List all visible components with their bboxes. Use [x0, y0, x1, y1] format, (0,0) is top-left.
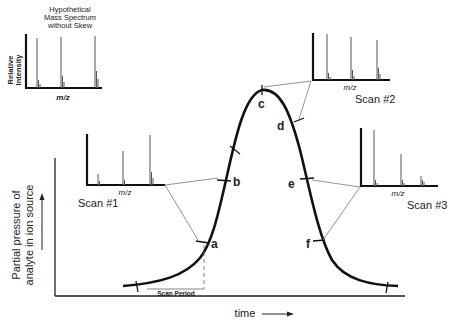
point-label-f: f	[306, 237, 311, 251]
x-axis-label: time	[235, 307, 256, 319]
y-axis-label-line2: analyte in ion source	[23, 185, 35, 286]
scan-period-label: Scan Period	[157, 290, 195, 297]
scan-2-connector-c	[264, 81, 311, 87]
reference-ylabel-line2: Intensity	[14, 54, 23, 86]
scan-3-connector-e	[312, 180, 360, 187]
reference-title-line3: without Skew	[47, 21, 93, 30]
point-label-e: e	[288, 177, 295, 191]
scan-period: Scan Period	[147, 245, 204, 297]
curve-ticks	[136, 85, 388, 293]
point-label-c: c	[258, 97, 265, 111]
scan-2-connector-d	[299, 81, 311, 119]
point-label-b: b	[233, 175, 240, 189]
point-label-d: d	[277, 119, 284, 133]
scan-2-label: Scan #2	[355, 93, 395, 105]
scan-1-connector-a	[165, 185, 198, 240]
x-axis-arrowhead-icon	[287, 312, 294, 317]
reference-spectrum: Hypothetical Mass Spectrum without Skew …	[6, 5, 102, 102]
curve-point-labels: a b c d e f	[211, 97, 311, 251]
scan-3-xlabel: m/z	[392, 189, 405, 198]
reference-xlabel: m/z	[56, 93, 69, 102]
scan-1-connector-b	[165, 178, 218, 185]
elution-curve	[123, 90, 398, 286]
scan-1-spectrum: m/z Scan #1	[78, 134, 218, 240]
y-axis-label-line1: Partial pressure of	[10, 189, 22, 279]
main-axes: Partial pressure of analyte in ion sourc…	[10, 158, 405, 319]
scan-3-label: Scan #3	[407, 199, 447, 211]
y-axis-arrowhead-icon	[40, 193, 45, 200]
scan-1-label: Scan #1	[78, 197, 118, 209]
point-label-a: a	[211, 237, 218, 251]
scan-1-xlabel: m/z	[119, 188, 132, 197]
reference-peaks	[37, 36, 98, 88]
scan-3-spectrum: m/z Scan #3	[312, 128, 447, 240]
scan-3-connector-f	[323, 187, 360, 240]
mass-spectrum-skew-diagram: Hypothetical Mass Spectrum without Skew …	[0, 0, 459, 326]
scan-2-xlabel: m/z	[344, 83, 357, 92]
